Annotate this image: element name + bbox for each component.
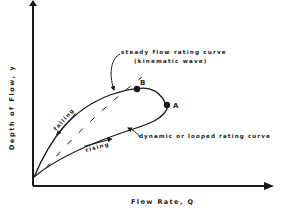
point-a-marker [164, 102, 170, 108]
y-axis-arrow-icon [29, 0, 37, 6]
x-axis-label: Flow Rate, Q [131, 198, 194, 206]
rating-curve-diagram: B A steady flow rating curve (kinematic … [0, 0, 290, 214]
steady-curve-sublabel: (kinematic wave) [134, 58, 208, 64]
x-axis-arrow-icon [264, 182, 274, 190]
y-axis-label: Depth of Flow, y [8, 65, 16, 150]
steady-label-leader [111, 54, 120, 90]
steady-curve-label: steady flow rating curve [121, 49, 227, 56]
dynamic-curve-label: dynamic or looped rating curve [139, 133, 271, 140]
point-a-label: A [173, 102, 179, 110]
falling-label: falling [52, 107, 76, 133]
point-b-label: B [140, 79, 145, 87]
